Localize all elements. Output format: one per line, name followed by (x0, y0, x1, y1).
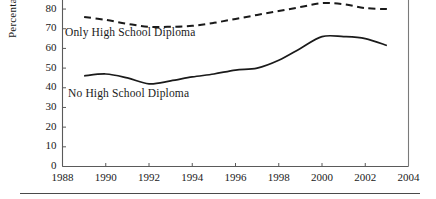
x-tick-label: 2000 (302, 171, 342, 183)
y-tick-label: 20 (35, 120, 57, 132)
x-tick-label: 1992 (129, 171, 169, 183)
y-tick-label: 40 (35, 80, 57, 92)
series-line-1 (84, 3, 387, 27)
x-tick-label: 1994 (172, 171, 212, 183)
x-tick-label: 1990 (86, 171, 126, 183)
y-tick-label: 10 (35, 139, 57, 151)
x-tick-label: 2004 (389, 171, 429, 183)
y-tick-label: 30 (35, 100, 57, 112)
series-line-2 (84, 36, 387, 84)
y-tick-label: 50 (35, 61, 57, 73)
data-series-group (84, 0, 387, 84)
y-tick-label: 70 (35, 21, 57, 33)
footer-divider-rule (20, 193, 420, 194)
x-tick-label: 1996 (216, 171, 256, 183)
series-annotation-only-high-school: Only High School Diploma (65, 26, 195, 38)
y-tick-label: 80 (35, 2, 57, 14)
x-tick-label: 1998 (259, 171, 299, 183)
y-tick-label: 60 (35, 41, 57, 53)
y-tick-label: 0 (35, 159, 57, 171)
x-tick-label: 2002 (345, 171, 385, 183)
axes-group (63, 0, 409, 167)
figure-container: Percentage 01020304050607080 19881990199… (0, 0, 436, 199)
x-tick-label: 1988 (43, 171, 83, 183)
series-annotation-no-high-school: No High School Diploma (68, 87, 189, 99)
